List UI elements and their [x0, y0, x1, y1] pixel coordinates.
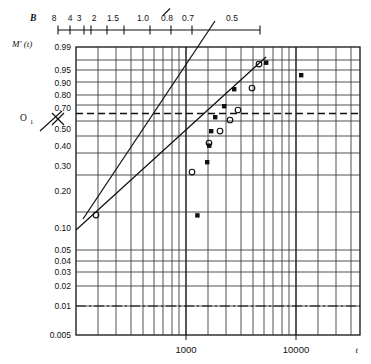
shape-tick-label: 1.0: [137, 13, 149, 23]
x-axis-ticks: [186, 335, 296, 340]
y-gridlines: [76, 60, 360, 306]
shape-tick-label: 3: [77, 13, 82, 23]
y-tick-label: 0.70: [54, 103, 71, 113]
data-point: [213, 115, 217, 119]
y-tick-label: 0.03: [54, 267, 71, 277]
data-point: [227, 117, 233, 123]
shape-construction-line: [83, 21, 215, 219]
shape-tick-label: 1.5: [107, 13, 119, 23]
data-point: [264, 61, 268, 65]
y-tick-label: 0.20: [54, 186, 71, 196]
shape-tick-label: 4: [68, 13, 73, 23]
x-axis-title: t: [355, 345, 358, 355]
data-point: [205, 160, 209, 164]
x-tick-label: 1000: [175, 344, 196, 355]
y-tick-label: 0.80: [54, 90, 71, 100]
y-tick-label: 0.50: [54, 124, 71, 134]
y-tick-label: 0.95: [54, 65, 71, 75]
y-tick-label: 0.04: [54, 256, 71, 266]
data-point: [222, 104, 226, 108]
shape-tick-label: 0.8: [161, 13, 173, 23]
x-tick-label: 10000: [283, 344, 309, 355]
y-tick-label: 0.005: [50, 330, 72, 340]
data-point: [189, 169, 195, 175]
shape-tick-label: 2: [92, 13, 97, 23]
shape-axis-title: B: [29, 13, 36, 23]
plot-canvas: B 8 4 3 2 1.5 1.0 0.8 0.7 0.5 M' (t) 0.9…: [0, 0, 371, 364]
weibull-plot-figure: B 8 4 3 2 1.5 1.0 0.8 0.7 0.5 M' (t) 0.9…: [0, 0, 371, 364]
data-point: [195, 213, 199, 217]
o1-label-subscript: 1: [30, 118, 33, 125]
data-point: [235, 107, 241, 113]
x-gridlines: [98, 47, 351, 335]
y-tick-label: 0.40: [54, 141, 71, 151]
y-tick-label: 0.02: [54, 281, 71, 291]
y-tick-label: 0.90: [54, 78, 71, 88]
data-point: [232, 87, 236, 91]
y-tick-label: 0.99: [54, 42, 71, 52]
y-axis-title: M' (t): [11, 39, 32, 49]
o1-label: O: [20, 113, 27, 123]
data-point: [249, 85, 255, 91]
series-filled-squares: [195, 61, 303, 218]
data-point: [207, 144, 211, 148]
y-tick-label: 0.30: [54, 161, 71, 171]
shape-tick-label: 8: [52, 13, 57, 23]
data-point: [209, 129, 213, 133]
y-tick-label: 0.10: [54, 223, 71, 233]
shape-tick-label: 0.7: [182, 13, 194, 23]
y-tick-label: 0.01: [54, 301, 71, 311]
shape-tick-label: 0.5: [226, 13, 238, 23]
y-tick-label: 0.05: [54, 245, 71, 255]
data-point: [299, 73, 303, 77]
regression-line: [76, 57, 266, 230]
data-point: [217, 128, 223, 134]
